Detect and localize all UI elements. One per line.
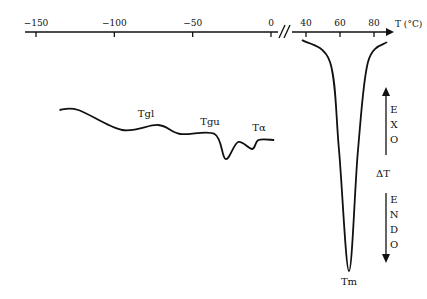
exo-label: EXO (390, 104, 399, 145)
x-axis-label: T (°C) (395, 19, 422, 29)
x-tick-label: 40 (300, 18, 312, 28)
endo-letter: E (390, 194, 397, 205)
melting-peak-curve (302, 40, 387, 271)
x-tick-label: −150 (24, 18, 49, 28)
endo-label: ENDO (390, 194, 399, 250)
annotation-tgl: Tgl (138, 108, 154, 119)
dsc-chart: −150−100−500406080 T (°C) Tgl Tgu Tα Tm … (0, 0, 427, 299)
axis-break-mark (284, 25, 290, 38)
annotation-tm: Tm (341, 276, 358, 287)
x-tick-label: 60 (334, 18, 346, 28)
axis-arrow-icon (386, 28, 394, 36)
x-tick-label: 0 (268, 18, 274, 28)
exo-letter: O (390, 134, 398, 145)
endo-letter: O (390, 239, 398, 250)
endo-letter: N (390, 209, 399, 220)
x-tick-label: 80 (368, 18, 380, 28)
delta-t-label: ΔT (376, 168, 390, 179)
x-tick-label: −50 (183, 18, 202, 28)
exo-letter: X (390, 119, 398, 130)
axis-break-mark (279, 25, 285, 38)
arrow-up-icon (382, 87, 390, 96)
arrow-down-icon (382, 254, 390, 263)
annotation-tgu: Tgu (200, 116, 220, 127)
x-tick-label: −100 (102, 18, 127, 28)
endo-letter: D (390, 224, 398, 235)
low-temp-curve (60, 109, 275, 160)
exo-letter: E (390, 104, 397, 115)
annotation-talpha: Tα (252, 122, 266, 133)
